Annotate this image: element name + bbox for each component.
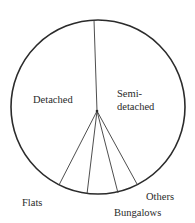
label-semi-detached-line2: detached [117, 101, 154, 113]
label-detached: Detached [33, 94, 73, 106]
pie-chart: Detached Semi- detached Flats Bungalows … [0, 0, 195, 223]
divider-bungalows-flats [87, 111, 97, 194]
label-semi-detached-line1: Semi- [117, 88, 142, 100]
pie-hub [96, 110, 99, 113]
label-bungalows: Bungalows [114, 207, 161, 219]
divider-semidetached-others [97, 111, 137, 184]
pie-chart-graphic [0, 0, 195, 223]
label-others: Others [146, 191, 174, 203]
divider-detached-semidetached [94, 20, 97, 111]
label-flats: Flats [22, 197, 42, 209]
pie-outline [11, 20, 185, 194]
divider-others-bungalows [97, 111, 118, 193]
divider-flats-detached [59, 111, 97, 185]
